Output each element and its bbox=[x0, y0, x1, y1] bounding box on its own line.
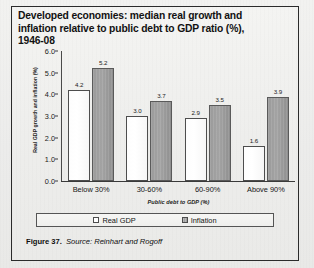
figure-frame: Developed economies: median real growth … bbox=[11, 6, 299, 261]
chart-legend: Real GDP Inflation bbox=[36, 213, 274, 227]
bars-container: 4.25.23.03.72.93.51.63.9 bbox=[62, 51, 295, 181]
plot-area: Real GDP growth and inflation (%) 0.01.0… bbox=[12, 51, 297, 213]
y-axis-tick-mark bbox=[55, 51, 58, 52]
x-axis-tick-label: Above 90% bbox=[247, 185, 285, 194]
x-axis-title: Public debt to GDP (%) bbox=[62, 199, 295, 205]
x-axis-tick-label: 60-90% bbox=[195, 185, 220, 194]
bar-inflation: 3.5 bbox=[209, 105, 231, 181]
legend-item-inflation: Inflation bbox=[182, 216, 217, 225]
y-axis-tick-label: 1.0 bbox=[45, 155, 55, 164]
y-axis-tick-label: 0.0 bbox=[45, 177, 55, 186]
bar-value-label: 5.2 bbox=[99, 59, 107, 66]
legend-item-real-gdp: Real GDP bbox=[93, 216, 135, 225]
chart-title: Developed economies: median real growth … bbox=[18, 10, 292, 48]
legend-label-real-gdp: Real GDP bbox=[102, 216, 135, 225]
bar-inflation: 5.2 bbox=[92, 68, 114, 181]
bar-inflation: 3.7 bbox=[150, 101, 172, 181]
bar-group: 3.03.7 bbox=[120, 51, 178, 181]
figure-number: Figure 37. bbox=[26, 237, 62, 246]
chart-title-line-1: Developed economies: median real growth … bbox=[18, 10, 292, 23]
figure-source: Source: Reinhart and Rogoff bbox=[66, 237, 162, 246]
y-axis-tick-mark bbox=[55, 94, 58, 95]
bar-value-label: 3.9 bbox=[274, 88, 282, 95]
figure-caption: Figure 37.Source: Reinhart and Rogoff bbox=[26, 237, 162, 246]
y-axis-tick-label: 6.0 bbox=[45, 47, 55, 56]
bar-value-label: 3.0 bbox=[133, 107, 141, 114]
y-axis-tick-mark bbox=[55, 181, 58, 182]
legend-swatch-real-gdp bbox=[93, 217, 99, 223]
bar-group: 4.25.2 bbox=[62, 51, 120, 181]
y-axis-tick-mark bbox=[55, 116, 58, 117]
chart-title-line-2: inflation relative to public debt to GDP… bbox=[18, 23, 292, 36]
y-axis-tick-label: 3.0 bbox=[45, 112, 55, 121]
bar-group: 1.63.9 bbox=[237, 51, 295, 181]
x-axis-tick-label: Below 30% bbox=[73, 185, 110, 194]
y-axis-tick-label: 2.0 bbox=[45, 133, 55, 142]
y-axis-tick-label: 4.0 bbox=[45, 90, 55, 99]
bar-value-label: 3.5 bbox=[215, 96, 223, 103]
chart-title-line-3: 1946-08 bbox=[18, 35, 292, 48]
bar-value-label: 2.9 bbox=[191, 109, 199, 116]
y-axis-tick-label: 5.0 bbox=[45, 68, 55, 77]
x-axis-tick-label: 30-60% bbox=[137, 185, 162, 194]
bar-real-gdp: 3.0 bbox=[126, 116, 148, 181]
bar-inflation: 3.9 bbox=[267, 97, 289, 182]
x-axis-line bbox=[61, 181, 295, 182]
bar-real-gdp: 1.6 bbox=[243, 146, 265, 181]
scanned-page: Developed economies: median real growth … bbox=[0, 0, 314, 268]
legend-label-inflation: Inflation bbox=[191, 216, 217, 225]
y-axis-tick-mark bbox=[55, 72, 58, 73]
bar-group: 2.93.5 bbox=[179, 51, 237, 181]
bar-value-label: 4.2 bbox=[75, 81, 83, 88]
bar-value-label: 1.6 bbox=[250, 137, 258, 144]
bar-real-gdp: 4.2 bbox=[68, 90, 90, 181]
bar-real-gdp: 2.9 bbox=[185, 118, 207, 181]
y-axis-tick-mark bbox=[55, 137, 58, 138]
y-axis-tick-mark bbox=[55, 159, 58, 160]
y-axis-tick-labels: 0.01.02.03.04.05.06.0 bbox=[32, 51, 58, 181]
legend-swatch-inflation bbox=[182, 217, 188, 223]
x-axis-tick-labels: Below 30%30-60%60-90%Above 90% bbox=[62, 185, 295, 199]
bar-value-label: 3.7 bbox=[157, 92, 165, 99]
